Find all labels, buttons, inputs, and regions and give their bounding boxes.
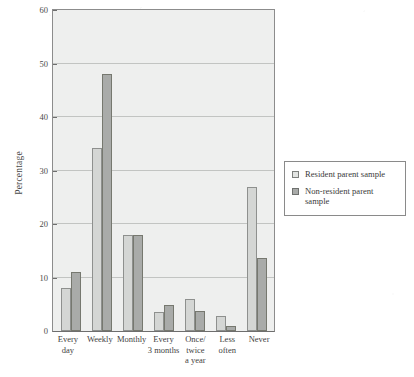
bar <box>216 316 226 331</box>
x-axis-label-line: Never <box>243 334 275 345</box>
bar-group <box>148 10 179 331</box>
y-axis-tick-label: 50 <box>18 59 53 69</box>
legend-item-label: Resident parent sample <box>305 169 385 180</box>
x-axis-label-line: twice <box>179 345 211 356</box>
legend-item-label: Non-resident parent sample <box>305 186 399 207</box>
x-axis-label: Monthly <box>116 334 148 366</box>
bar <box>102 74 112 331</box>
bar-group <box>86 10 117 331</box>
x-axis-label-line: Weekly <box>84 334 116 345</box>
y-axis-tick-label: 60 <box>18 5 53 15</box>
bar <box>154 312 164 331</box>
x-axis-label: Once/twicea year <box>179 334 211 366</box>
bar <box>61 288 71 331</box>
bar <box>195 311 205 331</box>
x-axis-label: Everyday <box>52 334 84 366</box>
bar-group <box>179 10 210 331</box>
bar-group <box>241 10 272 331</box>
x-axis-label-line: day <box>52 345 84 356</box>
bar <box>71 272 81 331</box>
legend-item: Non-resident parent sample <box>292 186 399 207</box>
bar-group <box>210 10 241 331</box>
bar-chart-figure: Percentage 0102030405060 EverydayWeeklyM… <box>0 0 414 377</box>
x-axis-labels: EverydayWeeklyMonthlyEvery3 monthsOnce/t… <box>52 334 275 366</box>
x-axis-label-line: Once/ <box>179 334 211 345</box>
x-axis-label: Every3 months <box>148 334 180 366</box>
y-axis-tick-label: 10 <box>18 273 53 283</box>
x-axis-label-line: Monthly <box>116 334 148 345</box>
x-axis-label: Weekly <box>84 334 116 366</box>
dark-gray-square-icon <box>292 188 299 195</box>
x-axis-label-line: a year <box>179 355 211 366</box>
y-axis-tick-label: 20 <box>18 219 53 229</box>
y-axis-tick-label: 0 <box>18 326 53 336</box>
legend-item: Resident parent sample <box>292 169 399 180</box>
bar <box>123 235 133 331</box>
bar <box>92 148 102 331</box>
light-gray-square-icon <box>292 171 299 178</box>
chart-legend: Resident parent sampleNon-resident paren… <box>284 161 406 216</box>
x-axis-label-line: Less <box>211 334 243 345</box>
x-axis-label: Never <box>243 334 275 366</box>
x-axis-label-line: Every <box>148 334 180 345</box>
bar <box>164 305 174 331</box>
bar-group <box>55 10 86 331</box>
x-axis-label-line: 3 months <box>148 345 180 356</box>
bar <box>226 326 236 331</box>
y-axis-tick-label: 30 <box>18 166 53 176</box>
bar-groups <box>53 10 274 331</box>
bar-group <box>117 10 148 331</box>
x-axis-label: Lessoften <box>211 334 243 366</box>
plot-area: 0102030405060 <box>52 9 275 332</box>
y-axis-tick-label: 40 <box>18 112 53 122</box>
bar <box>247 187 257 331</box>
bar <box>185 299 195 331</box>
bar <box>257 258 267 331</box>
x-axis-label-line: often <box>211 345 243 356</box>
x-axis-label-line: Every <box>52 334 84 345</box>
bar <box>133 235 143 331</box>
